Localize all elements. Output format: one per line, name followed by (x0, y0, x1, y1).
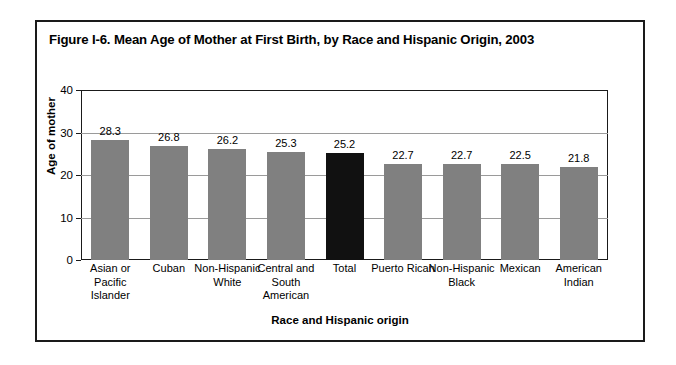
y-axis-tick-label: 10 (60, 212, 73, 224)
y-axis-tick-label: 20 (60, 169, 73, 181)
bar-value-label: 22.7 (370, 149, 436, 161)
y-axis-tick-label: 40 (60, 84, 73, 96)
x-axis-tick-labels: Asian or PacificIslanderCubanNon-Hispani… (81, 262, 608, 308)
y-axis-title: Age of mother (45, 97, 57, 175)
bar-value-label: 22.7 (429, 149, 495, 161)
bar-value-label: 21.8 (546, 152, 612, 164)
bar[interactable] (150, 146, 188, 260)
bar-slot: 22.7 (443, 90, 481, 260)
bar[interactable] (501, 164, 539, 260)
bar-value-label: 22.5 (487, 149, 553, 161)
bar-slot: 28.3 (91, 90, 129, 260)
bar-slot: 21.8 (560, 90, 598, 260)
bar-value-label: 28.3 (77, 125, 143, 137)
y-axis-tick-mark (76, 260, 81, 261)
bars-series: 28.326.826.225.325.222.722.722.521.8 (81, 90, 608, 260)
bar-value-label: 25.2 (312, 138, 378, 150)
bar[interactable] (91, 140, 129, 260)
figure-border: Figure I-6. Mean Age of Mother at First … (35, 20, 645, 342)
bar-value-label: 26.8 (136, 131, 202, 143)
bar-slot: 25.3 (267, 90, 305, 260)
plot-area-wrapper: 010203040 28.326.826.225.325.222.722.722… (81, 90, 608, 260)
y-axis-tick-label: 0 (67, 254, 73, 266)
bar-slot: 22.7 (384, 90, 422, 260)
bar[interactable] (384, 164, 422, 260)
x-axis-title: Race and Hispanic origin (37, 314, 643, 326)
bar[interactable] (326, 153, 364, 260)
bar-slot: 25.2 (326, 90, 364, 260)
bar[interactable] (560, 167, 598, 260)
bar-slot: 22.5 (501, 90, 539, 260)
bar[interactable] (443, 164, 481, 260)
bar-slot: 26.8 (150, 90, 188, 260)
bar[interactable] (208, 149, 246, 260)
figure-title: Figure I-6. Mean Age of Mother at First … (49, 32, 635, 47)
y-axis-tick-label: 30 (60, 127, 73, 139)
bar-value-label: 26.2 (194, 134, 260, 146)
bar[interactable] (267, 152, 305, 260)
bar-value-label: 25.3 (253, 137, 319, 149)
bar-slot: 26.2 (208, 90, 246, 260)
x-axis-tick-label: American Indian (543, 262, 614, 289)
